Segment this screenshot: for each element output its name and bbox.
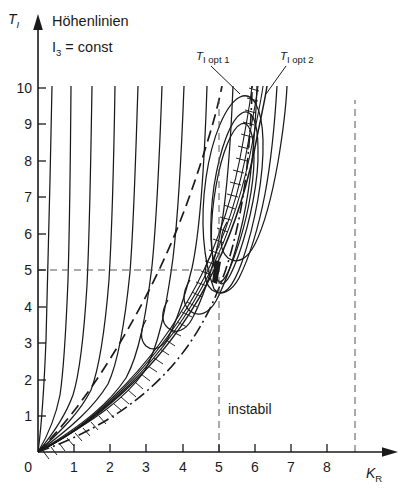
y-tick-label: 1: [24, 408, 32, 424]
y-tick-label: 5: [24, 262, 32, 278]
figure-title-line1: Höhenlinien: [52, 13, 129, 29]
x-tick-label: 2: [106, 459, 114, 475]
y-tick-label: 3: [24, 335, 32, 351]
hoehenlinien-chart: 10 9 8 7 6 5 4 3 2 1 0 1 2 3 4 5 6 7 8 T…: [0, 0, 417, 489]
x-tick-label: 8: [323, 459, 331, 475]
x-tick-label: 3: [142, 459, 150, 475]
y-tick-label: 2: [24, 372, 32, 388]
x-tick-label: 5: [215, 459, 223, 475]
y-tick-label: 9: [24, 116, 32, 132]
y-tick-label: 7: [24, 189, 32, 205]
y-tick-label: 6: [24, 226, 32, 242]
instabil-label: instabil: [228, 401, 272, 417]
x-tick-label: 4: [179, 459, 187, 475]
x-tick-label: 7: [287, 459, 295, 475]
x-tick-label: 1: [70, 459, 78, 475]
y-tick-label-zero: 0: [24, 459, 32, 475]
y-tick-label: 10: [16, 80, 32, 96]
y-tick-label: 4: [24, 299, 32, 315]
y-tick-label: 8: [24, 153, 32, 169]
chart-background: [0, 0, 417, 489]
x-tick-label: 6: [251, 459, 259, 475]
